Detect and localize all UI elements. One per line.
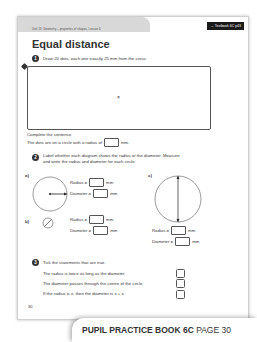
q3-statement-1: The radius is twice as long as the diame… (43, 271, 125, 276)
q1-instruction: Draw 20 dots, each one exactly 25 mm fro… (43, 56, 147, 61)
q1-radius-answer-box[interactable] (104, 138, 119, 147)
breadcrumb: Unit 13: Geometry – properties of shapes… (32, 27, 101, 31)
q1-sentence-end: mm. (121, 140, 129, 145)
q2b-radius-label: Radius = (70, 217, 87, 222)
q2a-radius-row: Radius =mm (70, 178, 113, 187)
q2c-radius-row: Radius =mm (152, 226, 195, 235)
circle-a-radius-diagram (31, 175, 69, 213)
q3-instruction: Tick the statements that are true. (43, 260, 106, 265)
q1-sentence-start: The dots are on a circle with a radius o… (27, 140, 102, 145)
circle-c-diameter-diagram (153, 174, 203, 224)
q2c-diameter-unit: mm (192, 239, 199, 244)
q2-instruction-line1: Label whether each diagram shows the rad… (43, 153, 180, 158)
footer-page: PAGE 30 (196, 325, 231, 335)
q3-tick-box-1[interactable] (176, 269, 185, 278)
q2b-radius-box[interactable] (89, 215, 104, 224)
q2a-radius-unit: mm (106, 180, 113, 185)
q1-drawing-area[interactable]: × (27, 66, 211, 130)
q2a-diameter-unit: mm (110, 191, 117, 196)
textbook-reference-badge: → Textbook 6C p43 (207, 22, 244, 30)
q2c-radius-unit: mm (188, 228, 195, 233)
q3-statement-2: The diameter passes through the centre o… (43, 281, 144, 286)
workbook-page: Unit 13: Geometry – properties of shapes… (17, 16, 249, 320)
q2a-radius-box[interactable] (89, 178, 104, 187)
q2a-label: a) (25, 173, 29, 178)
footer-banner: PUPIL PRACTICE BOOK 6C PAGE 30 (72, 318, 257, 342)
cross-mark: × (117, 94, 120, 100)
q2c-radius-box[interactable] (171, 226, 186, 235)
q2b-radius-unit: mm (106, 217, 113, 222)
q2b-diameter-box[interactable] (93, 226, 108, 235)
question-number-2: 2 (32, 154, 39, 161)
question-number-3: 3 (32, 259, 39, 266)
circle-b-diameter-diagram (42, 217, 54, 229)
q2b-label: b) (25, 219, 29, 224)
page-title: Equal distance (32, 38, 110, 50)
q2c-diameter-row: Diameter =mm (152, 237, 199, 246)
q2c-label: c) (148, 173, 152, 178)
q2b-diameter-row: Diameter =mm (70, 226, 117, 235)
q2c-diameter-box[interactable] (175, 237, 190, 246)
q2-instruction-line2: and write the radius and diameter for ea… (43, 159, 136, 164)
footer-book-title: PUPIL PRACTICE BOOK 6C (82, 325, 194, 335)
q1-complete-label: Complete the sentence. (27, 132, 72, 137)
q2c-radius-label: Radius = (152, 228, 169, 233)
q2a-diameter-row: Diameter =mm (70, 189, 117, 198)
q2a-diameter-label: Diameter = (70, 191, 91, 196)
footer-text: PUPIL PRACTICE BOOK 6C PAGE 30 (82, 325, 231, 335)
q3-tick-box-2[interactable] (176, 279, 185, 288)
q2b-radius-row: Radius =mm (70, 215, 113, 224)
q3-statement-3: If the radius is x, then the diameter is… (43, 291, 125, 296)
page-header-band: Unit 13: Geometry – properties of shapes… (18, 17, 150, 32)
q2a-radius-label: Radius = (70, 180, 87, 185)
question-number-1: 1 (32, 55, 39, 62)
q2c-diameter-label: Diameter = (152, 239, 173, 244)
page-number: 30 (28, 304, 32, 309)
q1-sentence: The dots are on a circle with a radius o… (27, 138, 129, 147)
q2b-diameter-label: Diameter = (70, 228, 91, 233)
q3-tick-box-3[interactable] (176, 290, 185, 299)
q2a-diameter-box[interactable] (93, 189, 108, 198)
q2b-diameter-unit: mm (110, 228, 117, 233)
